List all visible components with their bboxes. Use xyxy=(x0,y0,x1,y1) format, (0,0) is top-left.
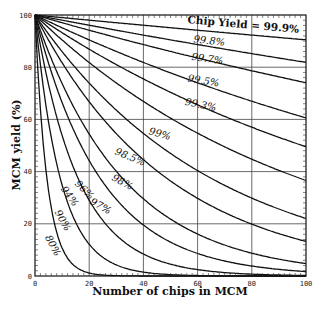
curve-label: Chip Yield = 99.9% xyxy=(187,13,300,35)
plot-frame xyxy=(35,15,306,276)
curve-label: 99.3% xyxy=(184,96,217,113)
curve-label: 98% xyxy=(110,172,135,192)
curve-98 xyxy=(35,15,306,241)
curve-96 xyxy=(35,15,306,272)
x-tick-label: 100 xyxy=(300,280,313,288)
y-tick-label: 80 xyxy=(24,64,32,72)
curve-labels: 80%90%94%96%97%98%98.5%99%99.3%99.5%99.7… xyxy=(43,13,300,258)
yield-curves xyxy=(35,15,306,276)
grid xyxy=(35,15,306,276)
y-tick-label: 20 xyxy=(24,220,32,228)
x-tick-label: 80 xyxy=(248,280,256,288)
y-tick-label: 60 xyxy=(24,116,32,124)
curve-99.3 xyxy=(35,15,306,147)
curve-label: 98.5% xyxy=(114,146,148,168)
curve-label: 99.7% xyxy=(191,51,224,66)
curve-90 xyxy=(35,15,306,276)
curve-80 xyxy=(35,15,306,276)
curve-label: 99.5% xyxy=(187,72,220,88)
x-tick-label: 0 xyxy=(33,280,37,288)
mcm-yield-chart: 020406080100020406080100 80%90%94%96%97%… xyxy=(0,0,323,313)
curve-94 xyxy=(35,15,306,276)
curve-label: 97% xyxy=(88,196,113,217)
x-axis-label: Number of chips in MCM xyxy=(92,285,248,298)
y-axis-label: MCM yield (%) xyxy=(10,99,23,190)
y-tick-label: 0 xyxy=(28,273,32,281)
y-tick-label: 100 xyxy=(19,12,32,20)
y-tick-label: 40 xyxy=(24,168,32,176)
curve-label: 80% xyxy=(43,233,63,258)
